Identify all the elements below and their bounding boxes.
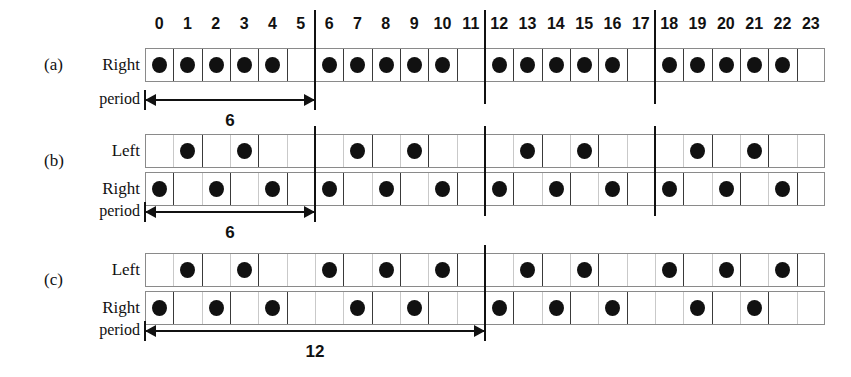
period-separator: [654, 126, 656, 216]
column-header-21: 21: [740, 16, 768, 32]
timeline-cell: [316, 173, 344, 205]
column-header-10: 10: [428, 16, 456, 32]
column-header-11: 11: [457, 16, 485, 32]
period-value-0: 6: [145, 112, 315, 129]
event-dot: [435, 181, 450, 197]
event-dot: [435, 262, 450, 278]
timeline-cell: [769, 254, 797, 286]
timeline-cell: [373, 254, 401, 286]
timeline-cell: [571, 254, 599, 286]
timeline-cell: [146, 254, 174, 286]
event-dot: [152, 57, 167, 73]
timeline-cell: [599, 254, 627, 286]
event-dot: [662, 262, 677, 278]
timeline-cell: [203, 135, 231, 167]
event-dot: [492, 181, 507, 197]
event-dot: [605, 181, 620, 197]
timeline-cell: [429, 173, 457, 205]
timeline-cell: [713, 254, 741, 286]
timeline-cell: [599, 135, 627, 167]
timeline-cell: [344, 49, 372, 81]
timeline-cell: [543, 49, 571, 81]
timeline-cell: [798, 173, 826, 205]
row-label-right-2: Right: [78, 299, 140, 316]
event-dot: [690, 57, 705, 73]
period-label-1: period: [62, 203, 140, 219]
arrow-end-tick: [144, 202, 146, 222]
timeline-cell: [429, 49, 457, 81]
column-header-0: 0: [145, 16, 173, 32]
timeline-cell: [401, 49, 429, 81]
event-dot: [407, 143, 422, 159]
timeline-cell: [231, 254, 259, 286]
period-separator: [484, 10, 486, 104]
event-dot: [577, 262, 592, 278]
timeline-cell: [798, 135, 826, 167]
period-separator: [654, 10, 656, 104]
event-dot: [520, 57, 535, 73]
column-header-1: 1: [173, 16, 201, 32]
timeline-cell: [401, 292, 429, 324]
timeline-cell: [514, 254, 542, 286]
arrow-head-left-icon: [145, 325, 156, 337]
timeline-cell: [599, 173, 627, 205]
timeline-cell: [514, 173, 542, 205]
timeline-cell: [769, 49, 797, 81]
timeline-cell: [543, 254, 571, 286]
timeline-cell: [288, 49, 316, 81]
timeline-cell: [373, 49, 401, 81]
period-label-2: period: [62, 322, 140, 338]
timeline-cell: [543, 135, 571, 167]
arrow-shaft: [145, 211, 315, 213]
timeline-cell: [486, 49, 514, 81]
timeline-cell: [571, 49, 599, 81]
event-dot: [180, 262, 195, 278]
timeline-cell: [628, 254, 656, 286]
event-dot: [662, 181, 677, 197]
column-header-12: 12: [485, 16, 513, 32]
event-dot: [209, 57, 224, 73]
timeline-cell: [458, 135, 486, 167]
timeline-cell: [231, 49, 259, 81]
column-header-8: 8: [372, 16, 400, 32]
event-dot: [350, 143, 365, 159]
event-dot: [605, 300, 620, 316]
event-dot: [322, 181, 337, 197]
timeline-cell: [628, 292, 656, 324]
timeline-cell: [316, 254, 344, 286]
timing-diagram-figure: 01234567891011121314151617181920212223(a…: [0, 0, 851, 377]
timeline-cell: [684, 173, 712, 205]
event-dot: [407, 300, 422, 316]
timeline-cell: [259, 173, 287, 205]
panel-tag-0: (a): [44, 56, 63, 73]
timeline-cell: [713, 135, 741, 167]
column-header-18: 18: [655, 16, 683, 32]
event-dot: [747, 57, 762, 73]
row-label-left-1: Left: [78, 142, 140, 159]
timeline-cell: [741, 135, 769, 167]
event-dot: [520, 143, 535, 159]
timeline-cell: [486, 254, 514, 286]
timeline-cell: [344, 254, 372, 286]
event-dot: [492, 300, 507, 316]
timeline-cell: [316, 135, 344, 167]
timeline-cell: [174, 292, 202, 324]
event-dot: [350, 57, 365, 73]
timeline-cell: [741, 49, 769, 81]
timeline-cell: [373, 135, 401, 167]
timeline-cell: [769, 292, 797, 324]
timeline-cell: [401, 254, 429, 286]
timeline-cell: [514, 135, 542, 167]
timeline-cell: [203, 49, 231, 81]
timeline-cell: [599, 292, 627, 324]
column-header-13: 13: [513, 16, 541, 32]
panel-tag-1: (b): [44, 152, 64, 169]
timeline-cell: [146, 49, 174, 81]
timeline-cell: [458, 49, 486, 81]
timeline-cell: [401, 135, 429, 167]
column-header-2: 2: [202, 16, 230, 32]
period-arrow-1: [145, 206, 315, 218]
timeline-cell: [288, 292, 316, 324]
event-dot: [379, 57, 394, 73]
event-dot: [577, 57, 592, 73]
